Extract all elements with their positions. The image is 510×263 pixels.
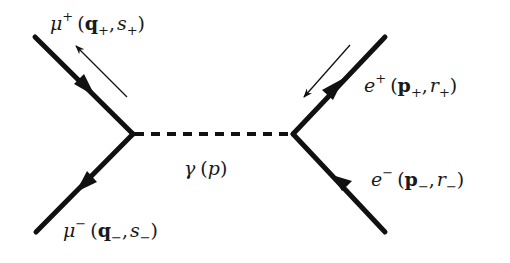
mu-plus-line bbox=[35, 37, 133, 134]
label-e-minus: e−(p−,r−) bbox=[371, 165, 464, 194]
label-mu-minus: μ−(q−,s−) bbox=[63, 216, 158, 245]
feynman-diagram: μ+(q+,s+) μ−(q−,s−) e+(p+,r+) e−(p−,r−) … bbox=[0, 0, 510, 263]
arrow-icon bbox=[332, 175, 352, 191]
label-mu-plus: μ+(q+,s+) bbox=[50, 9, 145, 38]
label-photon: γ(p) bbox=[184, 157, 227, 179]
label-e-plus: e+(p+,r+) bbox=[364, 71, 457, 100]
